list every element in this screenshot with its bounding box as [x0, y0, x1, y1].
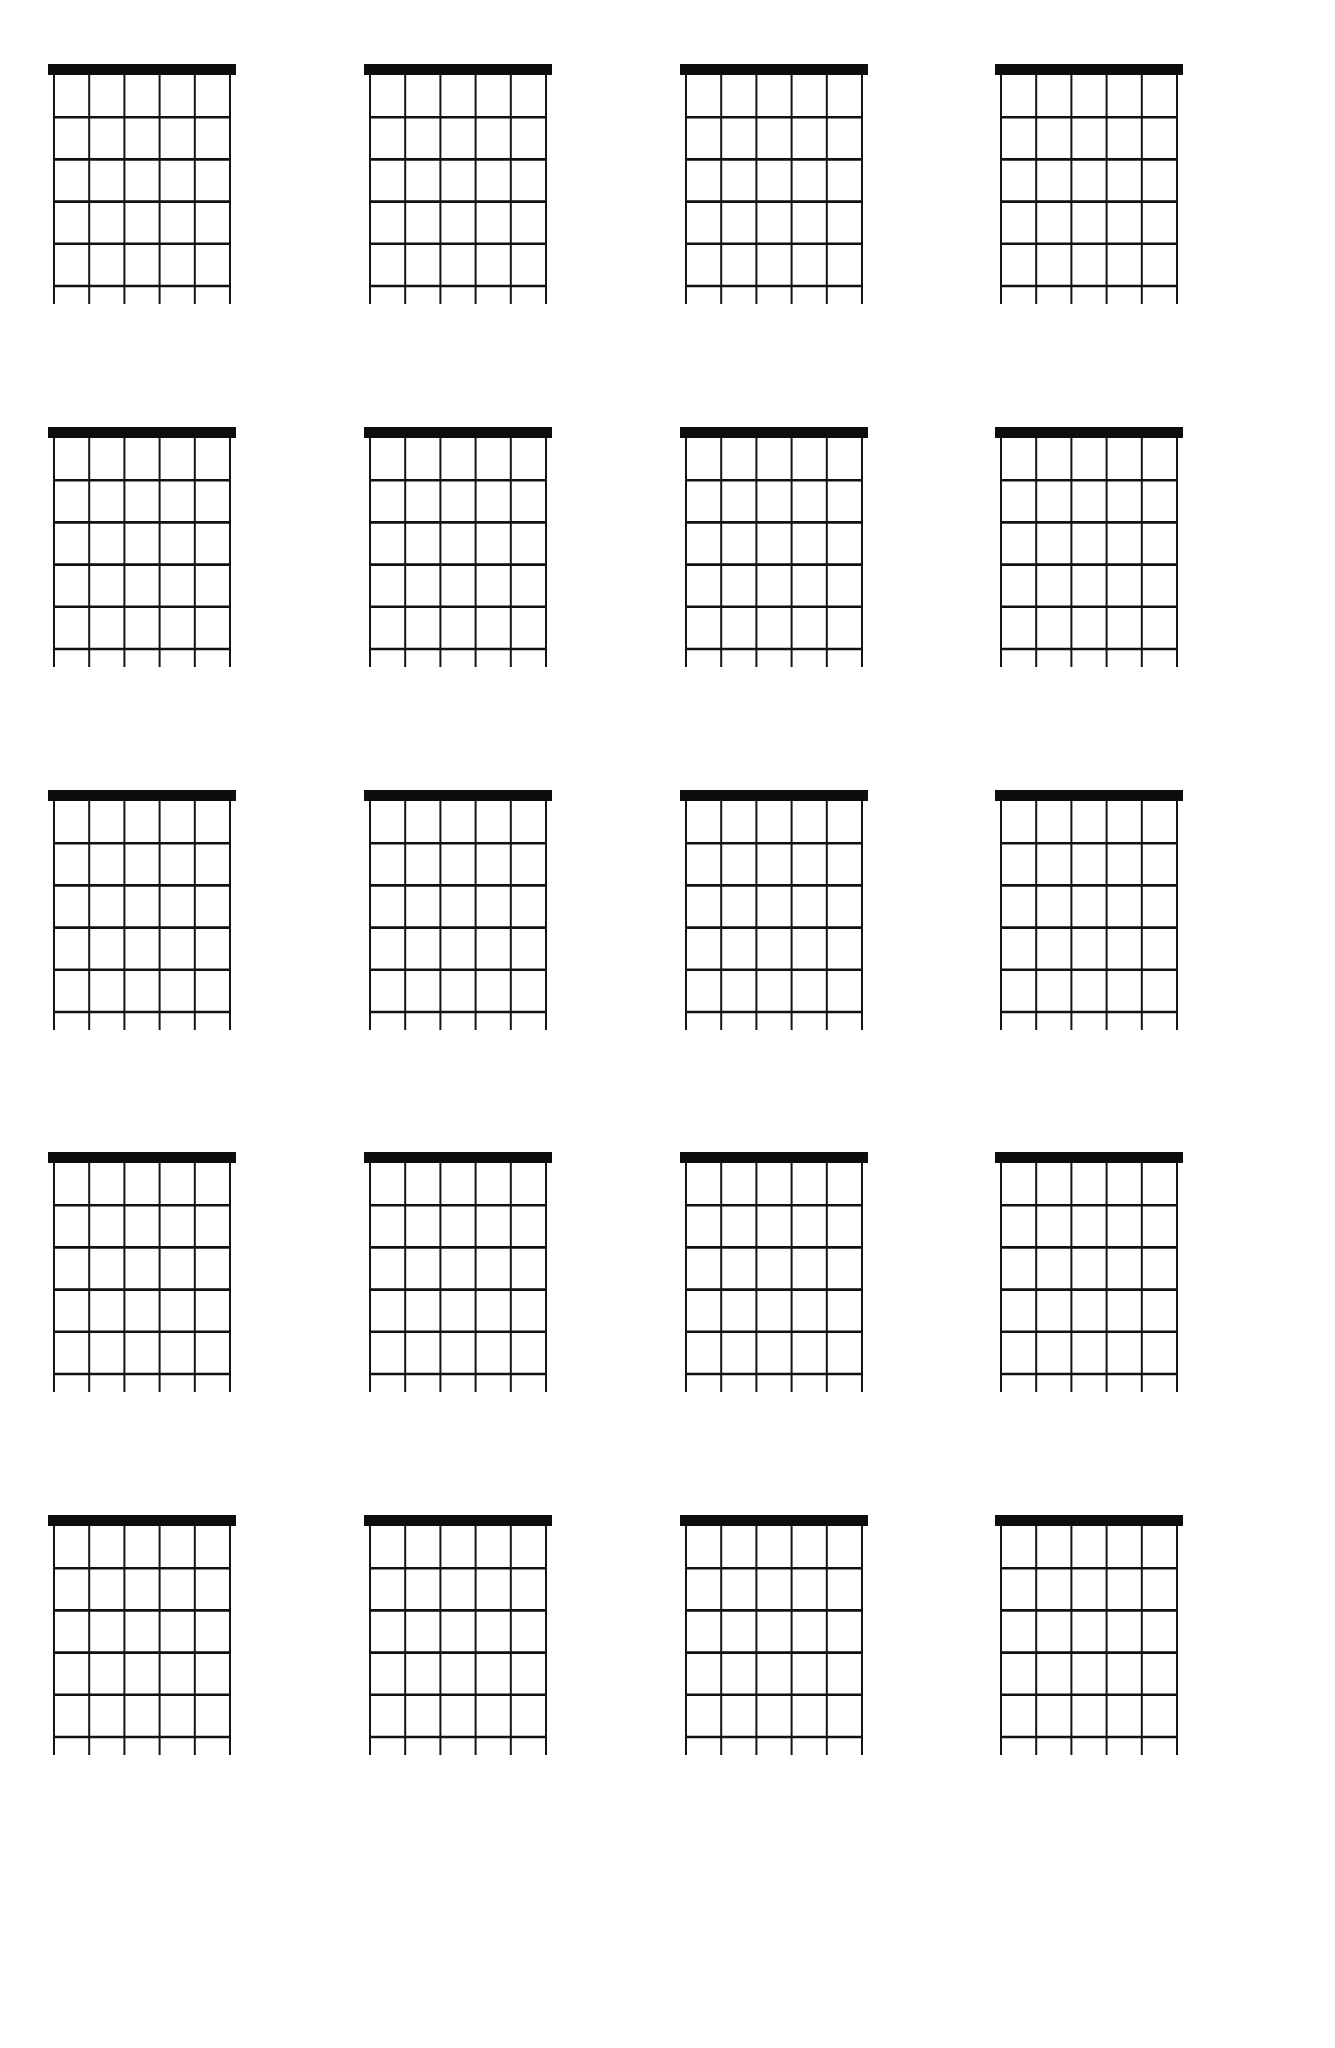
nut	[48, 790, 236, 801]
chord-diagram-17[interactable]	[54, 1515, 230, 1755]
chord-diagram-grid	[0, 0, 1335, 2048]
chord-diagram-8[interactable]	[1001, 427, 1177, 667]
chord-diagram-cell	[668, 1152, 984, 1515]
chord-diagram-cell	[668, 1515, 984, 1878]
chord-diagram-2[interactable]	[370, 64, 546, 304]
chord-diagram-cell	[36, 1515, 352, 1878]
worksheet-page	[0, 0, 1335, 2048]
nut	[48, 427, 236, 438]
chord-diagram-13[interactable]	[54, 1152, 230, 1392]
chord-diagram-19[interactable]	[686, 1515, 862, 1755]
nut	[995, 1152, 1183, 1163]
chord-diagram-5[interactable]	[54, 427, 230, 667]
chord-diagram-cell	[983, 64, 1299, 427]
nut	[995, 1515, 1183, 1526]
nut	[364, 790, 552, 801]
nut	[995, 64, 1183, 75]
nut	[364, 1515, 552, 1526]
chord-diagram-cell	[983, 790, 1299, 1153]
chord-diagram-cell	[983, 1152, 1299, 1515]
chord-diagram-6[interactable]	[370, 427, 546, 667]
nut	[680, 1152, 868, 1163]
chord-diagram-cell	[36, 790, 352, 1153]
chord-diagram-cell	[352, 790, 668, 1153]
chord-diagram-18[interactable]	[370, 1515, 546, 1755]
chord-diagram-16[interactable]	[1001, 1152, 1177, 1392]
chord-diagram-cell	[36, 1152, 352, 1515]
nut	[364, 427, 552, 438]
nut	[995, 790, 1183, 801]
chord-diagram-4[interactable]	[1001, 64, 1177, 304]
nut	[995, 427, 1183, 438]
chord-diagram-11[interactable]	[686, 790, 862, 1030]
chord-diagram-cell	[36, 427, 352, 790]
nut	[680, 1515, 868, 1526]
chord-diagram-3[interactable]	[686, 64, 862, 304]
nut	[364, 64, 552, 75]
nut	[364, 1152, 552, 1163]
nut	[48, 1515, 236, 1526]
chord-diagram-cell	[668, 427, 984, 790]
chord-diagram-cell	[983, 427, 1299, 790]
chord-diagram-cell	[36, 64, 352, 427]
chord-diagram-15[interactable]	[686, 1152, 862, 1392]
nut	[680, 790, 868, 801]
nut	[48, 64, 236, 75]
chord-diagram-cell	[668, 64, 984, 427]
chord-diagram-14[interactable]	[370, 1152, 546, 1392]
chord-diagram-cell	[352, 1152, 668, 1515]
chord-diagram-12[interactable]	[1001, 790, 1177, 1030]
chord-diagram-cell	[983, 1515, 1299, 1878]
nut	[680, 64, 868, 75]
chord-diagram-1[interactable]	[54, 64, 230, 304]
chord-diagram-cell	[352, 1515, 668, 1878]
nut	[680, 427, 868, 438]
chord-diagram-9[interactable]	[54, 790, 230, 1030]
chord-diagram-cell	[352, 64, 668, 427]
chord-diagram-7[interactable]	[686, 427, 862, 667]
chord-diagram-20[interactable]	[1001, 1515, 1177, 1755]
chord-diagram-cell	[668, 790, 984, 1153]
nut	[48, 1152, 236, 1163]
chord-diagram-10[interactable]	[370, 790, 546, 1030]
chord-diagram-cell	[352, 427, 668, 790]
